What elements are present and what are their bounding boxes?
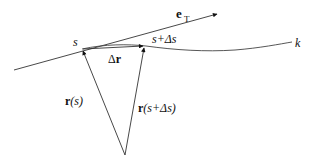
label-e-subscript: T — [184, 14, 190, 24]
label-r-s-plus-ds: r(s+Δs) — [138, 101, 176, 115]
label-s: s — [73, 35, 78, 49]
label-r-s: r(s) — [65, 94, 83, 108]
label-e: e — [176, 6, 182, 21]
label-curve-k: k — [295, 36, 301, 50]
curve-k — [82, 42, 292, 51]
tangent-diagram: e T s s+Δs Δr r(s) r(s+Δs) k — [0, 0, 316, 163]
vector-r-s — [83, 51, 125, 155]
label-s-plus-ds: s+Δs — [152, 32, 177, 46]
label-delta-r: Δr — [108, 52, 122, 66]
